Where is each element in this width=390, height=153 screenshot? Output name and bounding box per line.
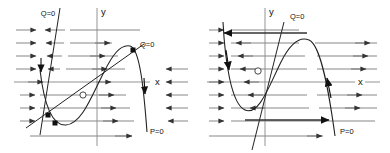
phase-plane-figure: Q=0 Q=0 P=0 x y [0,0,390,153]
equilibrium-filled-square [131,48,136,53]
phase-plane-panel-left: Q=0 Q=0 P=0 x y [0,0,195,153]
equilibrium-open-circle [255,68,261,74]
p-nullcline-left [40,46,147,132]
equilibrium-filled-square [53,121,58,126]
label-q-nullcline-top-right: Q=0 [290,12,304,21]
q-nullcline-shallow-left [26,44,144,128]
p-nullcline-right [223,22,335,136]
equilibrium-open-circle [80,92,86,98]
phase-plane-panel-right: Q=0 P=0 x y [195,0,390,153]
curve-flow-arrows-right [226,50,331,98]
label-q-nullcline-top-left: Q=0 [41,9,55,18]
axis-label-x-right: x [358,76,363,87]
label-p-nullcline-bottom: P=0 [150,127,164,136]
axis-label-y-right: y [269,6,274,17]
axis-label-x-left: x [155,76,160,87]
direction-field-left [14,30,188,136]
trajectory-segments-right [224,33,329,120]
label-q-nullcline-right: Q=0 [140,40,154,49]
curve-flow-arrows-left [41,58,145,94]
label-p-nullcline-bottom-right: P=0 [340,127,354,136]
q-nullcline-steep-right [252,22,284,150]
axis-label-y-left: y [101,6,106,17]
equilibrium-filled-square [46,113,51,118]
